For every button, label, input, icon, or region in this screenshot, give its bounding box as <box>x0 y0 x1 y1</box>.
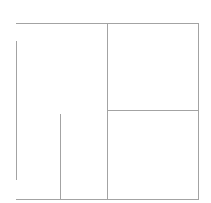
left-vertical-long-line <box>16 41 17 180</box>
right-border-line <box>198 23 199 200</box>
left-vertical-short-line <box>60 114 61 199</box>
right-bottom-panel <box>107 110 198 199</box>
right-panel-divider-line <box>107 110 199 111</box>
center-divider-line <box>107 23 108 200</box>
right-top-panel <box>107 23 198 110</box>
wireframe-diagram <box>0 0 211 203</box>
left-panel <box>16 23 107 199</box>
